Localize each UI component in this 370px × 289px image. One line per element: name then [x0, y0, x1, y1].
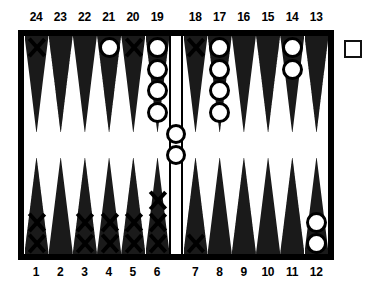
bar-checker-o[interactable] [166, 124, 186, 144]
point-label-6: 6 [145, 263, 169, 281]
checker-x-point-5[interactable] [123, 212, 144, 233]
point-label-5: 5 [121, 263, 145, 281]
point-label-15: 15 [256, 8, 280, 26]
point-outline-13 [305, 36, 329, 132]
checker-x-point-4[interactable] [99, 233, 120, 254]
point-23[interactable] [49, 36, 73, 132]
point-label-19: 19 [145, 8, 169, 26]
point-label-16: 16 [232, 8, 256, 26]
point-label-21: 21 [97, 8, 121, 26]
point-18[interactable] [184, 36, 208, 132]
point-outline-16 [232, 36, 256, 132]
checker-x-point-3[interactable] [74, 212, 95, 233]
point-3[interactable] [73, 158, 97, 254]
point-label-23: 23 [48, 8, 72, 26]
checker-o-point-17[interactable] [209, 80, 230, 101]
checker-x-point-1[interactable] [26, 233, 47, 254]
checker-x-point-18[interactable] [185, 37, 206, 58]
checker-x-point-6[interactable] [147, 233, 168, 254]
point-outline-11 [280, 158, 304, 254]
board-frame [18, 30, 334, 260]
checker-o-point-12[interactable] [306, 233, 327, 254]
point-label-9: 9 [232, 263, 256, 281]
point-label-11: 11 [280, 263, 304, 281]
checker-o-point-14[interactable] [282, 59, 303, 80]
point-outline-9 [232, 158, 256, 254]
point-label-10: 10 [256, 263, 280, 281]
checker-x-point-24[interactable] [26, 37, 47, 58]
point-outline-22 [73, 36, 97, 132]
point-label-14: 14 [280, 8, 304, 26]
point-label-22: 22 [72, 8, 96, 26]
point-5[interactable] [121, 158, 145, 254]
point-13[interactable] [305, 36, 329, 132]
bar-inner-strip[interactable] [171, 36, 181, 254]
point-22[interactable] [73, 36, 97, 132]
right-play-field[interactable] [183, 36, 328, 254]
backgammon-screenshot: 242322212019181716151413 123456789101112 [0, 0, 370, 289]
checker-o-point-14[interactable] [282, 37, 303, 58]
point-2[interactable] [49, 158, 73, 254]
point-label-24: 24 [24, 8, 48, 26]
point-4[interactable] [97, 158, 121, 254]
point-label-18: 18 [183, 8, 207, 26]
point-label-13: 13 [304, 8, 328, 26]
point-label-2: 2 [48, 263, 72, 281]
checker-x-point-20[interactable] [123, 37, 144, 58]
bar-checker-o[interactable] [166, 145, 186, 165]
checker-o-point-17[interactable] [209, 59, 230, 80]
point-10[interactable] [256, 158, 280, 254]
left-play-field[interactable] [24, 36, 169, 254]
checker-o-point-19[interactable] [147, 102, 168, 123]
checker-o-point-19[interactable] [147, 59, 168, 80]
point-label-17: 17 [207, 8, 231, 26]
point-label-20: 20 [121, 8, 145, 26]
point-outline-10 [256, 158, 280, 254]
point-9[interactable] [232, 158, 256, 254]
checker-x-point-6[interactable] [147, 190, 168, 211]
doubling-cube[interactable] [344, 40, 362, 58]
bottom-point-labels: 123456789101112 [0, 263, 370, 281]
checker-x-point-7[interactable] [185, 233, 206, 254]
point-20[interactable] [121, 36, 145, 132]
point-outline-23 [49, 36, 73, 132]
checker-x-point-1[interactable] [26, 212, 47, 233]
point-8[interactable] [208, 158, 232, 254]
point-15[interactable] [256, 36, 280, 132]
point-16[interactable] [232, 36, 256, 132]
point-1[interactable] [25, 158, 49, 254]
checker-o-point-19[interactable] [147, 80, 168, 101]
point-21[interactable] [97, 36, 121, 132]
point-outline-15 [256, 36, 280, 132]
point-label-1: 1 [24, 263, 48, 281]
checker-o-point-21[interactable] [99, 37, 120, 58]
point-label-3: 3 [72, 263, 96, 281]
checker-x-point-5[interactable] [123, 233, 144, 254]
point-12[interactable] [305, 158, 329, 254]
point-19[interactable] [146, 36, 170, 132]
checker-o-point-19[interactable] [147, 37, 168, 58]
checker-x-point-4[interactable] [99, 212, 120, 233]
top-point-labels: 242322212019181716151413 [0, 8, 370, 26]
checker-o-point-17[interactable] [209, 102, 230, 123]
point-label-12: 12 [304, 263, 328, 281]
point-24[interactable] [25, 36, 49, 132]
point-14[interactable] [280, 36, 304, 132]
checker-x-point-6[interactable] [147, 212, 168, 233]
point-17[interactable] [208, 36, 232, 132]
point-11[interactable] [280, 158, 304, 254]
checker-o-point-12[interactable] [306, 212, 327, 233]
checker-x-point-3[interactable] [74, 233, 95, 254]
point-label-7: 7 [183, 263, 207, 281]
point-7[interactable] [184, 158, 208, 254]
point-outline-8 [208, 158, 232, 254]
point-label-4: 4 [97, 263, 121, 281]
point-outline-2 [49, 158, 73, 254]
point-6[interactable] [146, 158, 170, 254]
point-label-8: 8 [207, 263, 231, 281]
